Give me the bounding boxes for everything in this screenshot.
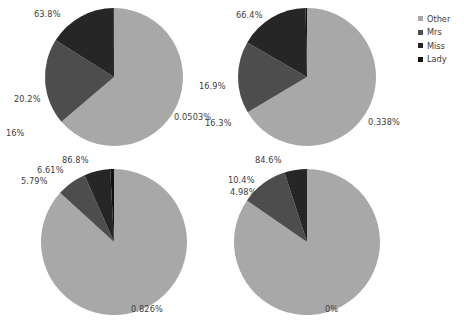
legend-item-lady[interactable]: Lady	[418, 53, 464, 67]
legend-swatch-icon	[418, 43, 423, 48]
pie-slice-label-lady: 0.826%	[131, 305, 163, 313]
pie-slice-label-other: 86.8%	[62, 156, 89, 164]
pie-slice-label-miss: 16.3%	[205, 119, 232, 127]
legend-swatch-icon	[418, 57, 423, 62]
pie-slice-label-other: 84.6%	[255, 156, 282, 164]
legend-item-mrs[interactable]: Mrs	[418, 26, 464, 40]
pie-slice-label-lady: 0.338%	[368, 118, 400, 126]
legend-item-miss[interactable]: Miss	[418, 39, 464, 53]
pie-slice-label-other: 66.4%	[236, 11, 263, 19]
pie-slice-label-mrs: 10.4%	[228, 176, 255, 184]
pie-slice-label-lady: 0%	[325, 305, 338, 313]
pie-bottom-left	[39, 167, 189, 317]
pie-top-left	[43, 6, 185, 148]
pie-legend: OtherMrsMissLady	[418, 12, 464, 66]
pie-chart-figure: 63.8%20.2%16%0.0503%66.4%16.9%16.3%0.338…	[0, 0, 464, 322]
legend-swatch-icon	[418, 30, 423, 35]
legend-item-label: Lady	[427, 55, 447, 63]
legend-swatch-icon	[418, 16, 423, 21]
pie-top-right	[236, 6, 378, 148]
legend-item-label: Miss	[427, 42, 445, 50]
pie-slice-label-mrs: 6.61%	[37, 166, 64, 174]
legend-item-label: Other	[427, 15, 450, 23]
legend-item-other[interactable]: Other	[418, 12, 464, 26]
legend-item-label: Mrs	[427, 28, 442, 36]
pie-slice-label-mrs: 16.9%	[199, 82, 226, 90]
pie-slice-label-miss: 4.98%	[230, 188, 257, 196]
pie-slice-label-mrs: 20.2%	[14, 95, 41, 103]
pie-slice-label-miss: 16%	[6, 129, 25, 137]
pie-slice-label-other: 63.8%	[34, 10, 61, 18]
pie-slice-label-miss: 5.79%	[21, 177, 48, 185]
